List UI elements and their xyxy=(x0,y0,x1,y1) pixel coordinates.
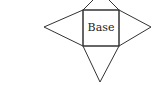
left-triangle-face xyxy=(44,10,83,46)
base-label: Base xyxy=(88,21,115,34)
right-triangle-face xyxy=(119,10,151,46)
pyramid-net-diagram: Base xyxy=(0,0,155,85)
bottom-triangle-face xyxy=(83,46,119,82)
top-triangle-face xyxy=(83,0,119,10)
